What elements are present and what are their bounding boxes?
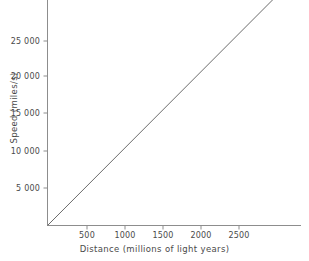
x-axis-ticks [87, 226, 239, 230]
y-axis-ticks [44, 41, 48, 188]
x-axis-title: Distance (millions of light years) [0, 244, 309, 254]
y-tick-label-25000: 25 000 [0, 37, 40, 46]
x-tick-label-500: 500 [79, 231, 95, 240]
plot-area [0, 0, 309, 261]
y-axis-title: Speed (miles/s) [9, 53, 19, 163]
y-tick-label-5000: 5 000 [0, 184, 40, 193]
data-line-hubble [48, 0, 273, 226]
chart-figure: 25 000 20 000 15 000 10 000 5 000 500 10… [0, 0, 309, 261]
x-tick-label-1500: 1500 [152, 231, 173, 240]
y-tick-label-20000: 20 000 [0, 72, 40, 81]
y-tick-label-10000: 10 000 [0, 147, 40, 156]
x-tick-label-2500: 2500 [228, 231, 249, 240]
x-tick-label-1000: 1000 [114, 231, 135, 240]
y-tick-label-15000: 15 000 [0, 109, 40, 118]
x-tick-label-2000: 2000 [190, 231, 211, 240]
